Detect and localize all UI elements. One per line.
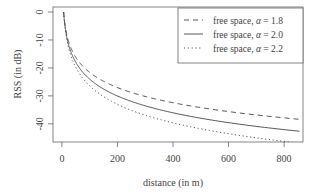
x-tick-label: 0 [59,153,64,164]
legend-item-label: free space, α = 2.2 [213,44,283,54]
y-tick-label: -10 [34,33,45,46]
y-tick-label: -40 [34,117,45,130]
legend-item-label: free space, α = 1.8 [213,16,283,26]
x-axis: 0200400600800 [59,142,291,164]
legend: free space, α = 1.8free space, α = 2.0fr… [178,8,303,63]
legend-item-label: free space, α = 2.0 [213,30,283,40]
y-axis: 0-10-20-30-40 [34,10,53,131]
y-tick-label: -30 [34,89,45,102]
x-axis-label: distance (in m) [143,177,203,189]
y-tick-label: 0 [34,10,45,15]
rss-vs-distance-chart: 0-10-20-30-40 RSS (in dB) 0200400600800 … [0,0,315,195]
y-axis-label: RSS (in dB) [12,50,24,99]
x-tick-label: 600 [221,153,236,164]
x-tick-label: 200 [110,153,125,164]
y-tick-label: -20 [34,61,45,74]
x-tick-label: 800 [277,153,292,164]
x-tick-label: 400 [166,153,181,164]
